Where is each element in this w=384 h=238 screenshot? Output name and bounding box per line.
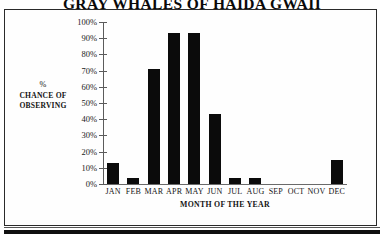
bar-slot (306, 22, 326, 184)
bar (148, 69, 160, 184)
y-axis-tick (99, 184, 107, 185)
x-axis-tick-label: AUG (247, 187, 265, 196)
bar (229, 178, 241, 184)
bar (168, 33, 180, 184)
bars-group (103, 22, 347, 184)
bar-slot (225, 22, 245, 184)
y-axis-tick-label: 10% (81, 163, 97, 173)
x-axis-tick-label: SEP (269, 187, 283, 196)
y-axis-title-line-2: CHANCE OF (10, 91, 76, 102)
x-axis-tick-label: JUN (207, 187, 222, 196)
bar-slot (245, 22, 265, 184)
y-axis-tick-label: 100% (77, 17, 97, 27)
chart-page: GRAY WHALES OF HAIDA GWAII 0%10%20%30%40… (0, 0, 384, 238)
bar (127, 178, 139, 184)
x-axis-tick-labels: JANFEBMARAPRMAYJUNJULAUGSEPOCTNOVDEC (103, 187, 347, 199)
bar-slot (144, 22, 164, 184)
bar (188, 33, 200, 184)
x-axis-tick-label: JUL (228, 187, 242, 196)
x-axis-title: MONTH OF THE YEAR (103, 200, 347, 209)
y-axis-tick-label: 20% (81, 147, 97, 157)
x-axis-tick-label: DEC (329, 187, 346, 196)
y-axis-title: % CHANCE OF OBSERVING (10, 80, 76, 112)
bar-slot (286, 22, 306, 184)
y-axis-tick-label: 50% (81, 98, 97, 108)
y-axis-title-line-1: % (10, 80, 76, 91)
x-axis-tick-label: NOV (308, 187, 326, 196)
y-axis-tick-label: 40% (81, 114, 97, 124)
x-axis-tick-label: FEB (126, 187, 141, 196)
bar-slot (266, 22, 286, 184)
x-axis-tick-label: JAN (106, 187, 121, 196)
bar (209, 114, 221, 184)
bar-slot (184, 22, 204, 184)
bar-slot (103, 22, 123, 184)
bottom-black-rule (4, 230, 380, 234)
bar-slot (164, 22, 184, 184)
y-axis-tick-label: 60% (81, 82, 97, 92)
y-axis-tick-label: 0% (86, 179, 97, 189)
bottom-hairline (4, 227, 380, 228)
x-axis-tick-label: MAR (144, 187, 163, 196)
bar (249, 178, 261, 184)
bar (107, 163, 119, 184)
x-axis-tick-label: OCT (288, 187, 305, 196)
y-axis-title-line-3: OBSERVING (10, 101, 76, 112)
bar-slot (123, 22, 143, 184)
bar (331, 160, 343, 184)
bar-slot (327, 22, 347, 184)
x-axis-line (103, 184, 347, 185)
bar-slot (205, 22, 225, 184)
y-axis-tick-label: 90% (81, 33, 97, 43)
x-axis-tick-label: MAY (185, 187, 204, 196)
x-axis-tick-label: APR (166, 187, 182, 196)
y-axis-tick-label: 30% (81, 130, 97, 140)
y-axis-tick-label: 80% (81, 49, 97, 59)
y-axis-tick-label: 70% (81, 66, 97, 76)
